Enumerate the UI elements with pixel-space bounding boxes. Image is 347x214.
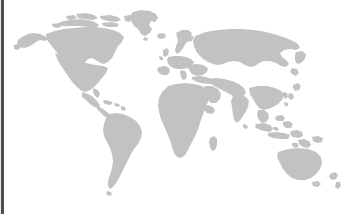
world-map-page: [0, 0, 347, 214]
left-edge-bar: [1, 0, 4, 214]
region-new-zealand: [329, 172, 341, 189]
region-africa: [158, 83, 215, 158]
region-iceland: [157, 33, 166, 39]
region-south-america: [103, 113, 142, 196]
world-map-svg: [0, 0, 347, 214]
region-asia: [193, 29, 306, 129]
region-australia: [277, 148, 322, 187]
world-map-canvas: [0, 0, 347, 214]
region-greenland: [124, 10, 158, 41]
region-madagascar: [209, 136, 217, 151]
region-caribbean: [103, 100, 126, 111]
